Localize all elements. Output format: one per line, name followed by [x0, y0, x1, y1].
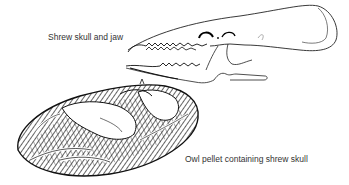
pellet-label: Owl pellet containing shrew skull: [185, 154, 308, 164]
illustration: Shrew skull and jaw Owl pellet containin…: [0, 0, 349, 185]
skull-label: Shrew skull and jaw: [48, 32, 123, 42]
